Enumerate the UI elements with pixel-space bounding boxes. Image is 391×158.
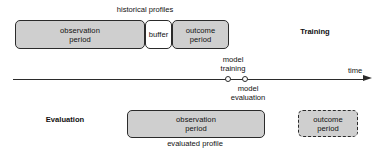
evaluation-observation-period-box: observation period [127, 110, 265, 138]
evaluation-phase-label: Evaluation [25, 115, 105, 124]
historical-profiles-label: historical profiles [95, 5, 195, 14]
evaluation-outcome-period-box: outcome period [298, 110, 358, 137]
training-phase-label: Training [280, 27, 350, 36]
model-training-marker-label: model training [200, 55, 266, 73]
training-outcome-period-box: outcome period [172, 20, 229, 49]
training-observation-period-label: observation period [60, 26, 100, 44]
training-buffer-box: buffer [145, 20, 172, 49]
model-evaluation-marker-icon [242, 76, 248, 82]
model-evaluation-marker-label: model evaluation [215, 84, 281, 102]
training-observation-period-box: observation period [15, 20, 145, 49]
time-axis [13, 78, 375, 80]
evaluation-outcome-period-label: outcome period [313, 115, 342, 133]
training-outcome-period-label: outcome period [186, 26, 215, 44]
time-axis-label: time [348, 66, 382, 75]
evaluated-profile-label: evaluated profile [140, 139, 250, 148]
model-training-marker-icon [225, 76, 231, 82]
arrow-right-icon [363, 75, 372, 81]
evaluation-observation-period-label: observation period [176, 115, 216, 133]
training-buffer-label: buffer [149, 30, 169, 39]
time-axis-line [13, 79, 365, 80]
timeline-diagram: historical profiles observation period b… [0, 0, 391, 158]
